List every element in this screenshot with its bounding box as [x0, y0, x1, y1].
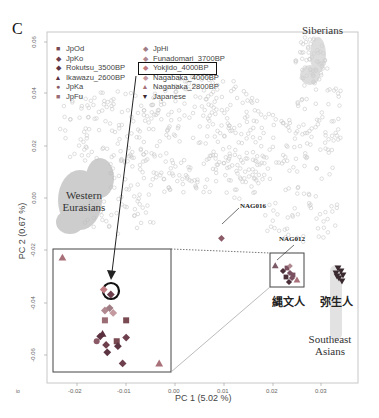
region-label-text: Southeast Asians: [309, 333, 352, 357]
group-label-yayoi: 弥生人: [320, 293, 353, 309]
legend-label: JpKa: [66, 82, 83, 92]
legend-item: ■JpOd: [54, 44, 125, 54]
x-tick-label: -0.02: [68, 388, 82, 394]
y-tick-label: -0.04: [30, 296, 36, 310]
legend-label: Rokutsu_3500BP: [66, 63, 125, 73]
x-tick-label: 0.02: [266, 388, 278, 394]
x-tick-label: 0.01: [217, 388, 229, 394]
y-tick-label: 0.06: [31, 36, 37, 48]
legend-label: JpOd: [66, 44, 84, 54]
circle-marker: [94, 338, 100, 344]
legend-item: ◆JpKo: [54, 54, 125, 64]
corner-mark: io: [16, 388, 20, 394]
diamond-marker-icon: ◆: [54, 54, 62, 64]
legend-item: ◆Rokutsu_3500BP: [54, 63, 125, 73]
square-marker: [291, 273, 296, 278]
y-tick-label: 0.02: [31, 140, 37, 152]
yokjido-legend-highlight-box: [138, 62, 217, 75]
legend-label: Japanese: [153, 92, 186, 102]
group-label-jomon: 縄文人: [272, 293, 305, 309]
square-marker-icon: ■: [54, 92, 62, 102]
square-marker-icon: ■: [54, 44, 62, 54]
annotation-nag016: NAG016: [240, 202, 266, 210]
square-marker: [284, 275, 289, 280]
diamond-marker-icon: ◆: [54, 63, 62, 73]
x-axis-title: PC 1 (5.02 %): [175, 393, 232, 403]
panel-label: C: [12, 20, 23, 38]
legend-item: ▲Ikawazu_2600BP: [54, 73, 125, 83]
diamond-marker-icon: ◆: [141, 44, 149, 54]
region-label-siberians: Siberians: [302, 24, 343, 36]
legend-item: ▲Nagabaka_2800BP: [141, 82, 225, 92]
y-tick-label: -0.06: [30, 348, 36, 362]
legend-item: ▼Japanese: [141, 92, 225, 102]
circle-marker-icon: ●: [54, 82, 62, 92]
legend-label: JpFu: [66, 92, 83, 102]
legend-label: JpKo: [66, 54, 83, 64]
region-label-text: Western Eurasians: [63, 189, 106, 213]
y-axis-title: PC 2 (0.67 %): [17, 201, 27, 261]
legend-label: Ikawazu_2600BP: [66, 73, 125, 83]
legend-label: Nagabaka_2800BP: [153, 82, 219, 92]
legend-left: ■JpOd ◆JpKo ◆Rokutsu_3500BP ▲Ikawazu_260…: [54, 44, 125, 102]
legend-item: ◆JpHi: [141, 44, 225, 54]
triangle-up-marker-icon: ▲: [54, 73, 62, 83]
region-label-western-eurasians: Western Eurasians: [56, 189, 112, 213]
y-tick-label: -0.02: [30, 243, 36, 257]
square-marker: [102, 317, 108, 323]
x-tick-label: 0.03: [315, 388, 327, 394]
annotation-nag012: NAG012: [279, 235, 305, 243]
legend-item: ●JpKa: [54, 82, 125, 92]
legend-item: ■JpFu: [54, 92, 125, 102]
y-tick-label: 0.00: [31, 192, 37, 204]
y-tick-label: 0.04: [31, 87, 37, 99]
square-marker: [123, 317, 129, 323]
legend-label: JpHi: [153, 44, 168, 54]
x-tick-label: 0.00: [168, 388, 180, 394]
x-tick-label: -0.01: [117, 388, 131, 394]
triangle-up-marker-icon: ▲: [141, 82, 149, 92]
region-label-southeast-asians: Southeast Asians: [303, 333, 357, 357]
triangle-down-marker-icon: ▼: [141, 92, 149, 102]
